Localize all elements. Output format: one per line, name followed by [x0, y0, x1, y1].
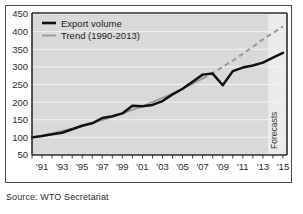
legend-label: Trend (1990-2013)	[61, 30, 140, 41]
x-tick-label: '05	[176, 161, 188, 172]
y-tick-label: 450	[12, 8, 28, 19]
x-tick-label: '03	[156, 161, 168, 172]
y-tick-label: 400	[12, 26, 28, 37]
forecast-annotation: Forecasts	[269, 112, 279, 149]
legend-label: Export volume	[61, 18, 122, 29]
y-tick-label: 50	[17, 149, 28, 160]
x-tick-label: '09	[217, 161, 229, 172]
x-tick-label: '01	[136, 161, 148, 172]
x-tick-label: '11	[237, 161, 249, 172]
y-tick-label: 100	[12, 132, 28, 143]
line-chart: 50100150200250300350400450'91'93'95'97'9…	[6, 6, 291, 182]
chart-figure: 50100150200250300350400450'91'93'95'97'9…	[5, 5, 292, 183]
x-tick-label: '95	[76, 161, 88, 172]
x-tick-label: '13	[257, 161, 269, 172]
x-tick-label: '07	[196, 161, 208, 172]
y-tick-label: 150	[12, 114, 28, 125]
source-caption: Source: WTO Secretariat	[6, 192, 109, 202]
x-tick-label: '93	[56, 161, 68, 172]
y-tick-label: 350	[12, 44, 28, 55]
x-tick-label: '99	[116, 161, 128, 172]
y-tick-label: 300	[12, 61, 28, 72]
chart-plot-area: 50100150200250300350400450'91'93'95'97'9…	[6, 6, 291, 182]
y-tick-label: 200	[12, 97, 28, 108]
x-tick-label: '97	[96, 161, 108, 172]
y-tick-label: 250	[12, 79, 28, 90]
x-tick-label: '91	[36, 161, 48, 172]
x-tick-label: '15	[277, 161, 289, 172]
